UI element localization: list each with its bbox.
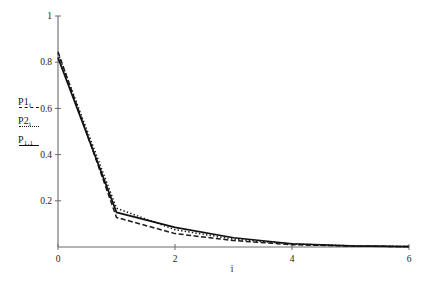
chart-figure: P1i P2i P1,1 0.20.40.60.81 0246 i xyxy=(0,0,427,286)
y-tick-label: 0.2 xyxy=(40,196,52,206)
x-axis-title: i xyxy=(231,264,234,274)
plot-area: 0.20.40.60.81 0246 i xyxy=(0,0,427,286)
y-tick-label: 0.8 xyxy=(40,57,52,67)
y-tick-label: 0.6 xyxy=(40,104,52,114)
x-tick-label: 0 xyxy=(56,254,61,264)
axis-lines xyxy=(58,16,409,247)
y-tick-label: 0.4 xyxy=(40,150,52,160)
series-line-p11 xyxy=(58,58,409,247)
data-series-layer xyxy=(58,52,409,247)
y-tick-label: 1 xyxy=(47,11,52,21)
x-tick-label: 4 xyxy=(290,254,295,264)
x-tick-label: 6 xyxy=(407,254,412,264)
series-line-p2 xyxy=(58,53,409,246)
series-line-p1 xyxy=(58,52,409,247)
x-tick-label: 2 xyxy=(173,254,178,264)
